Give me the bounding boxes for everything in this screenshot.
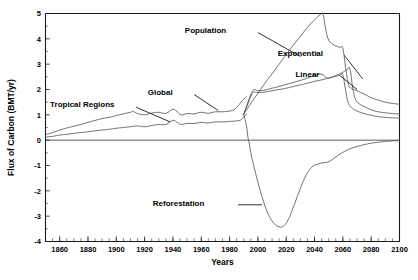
series-label-population: Population	[185, 26, 226, 35]
y-tick-label: -3	[34, 212, 41, 221]
x-tick-label: 1940	[165, 245, 182, 254]
chart-figure: 1860188019001920194019601980200020202040…	[0, 0, 418, 280]
y-tick-label: -1	[34, 161, 41, 170]
x-tick-label: 1960	[193, 245, 210, 254]
x-tick-label: 1980	[221, 245, 238, 254]
series-label-linear: Linear	[295, 70, 319, 79]
x-tick-label: 1860	[51, 245, 68, 254]
y-tick-label: 1	[37, 111, 41, 120]
series-label-global: Global	[148, 88, 173, 97]
x-tick-label: 2060	[335, 245, 352, 254]
series-label-tropical-regions: Tropical Regions	[50, 100, 115, 109]
x-tick-label: 2040	[306, 245, 323, 254]
series-label-exponential: Exponential	[278, 49, 323, 58]
y-tick-label: -2	[34, 187, 41, 196]
x-axis-title: Years	[211, 257, 234, 267]
y-tick-label: 3	[37, 60, 41, 69]
x-tick-label: 2000	[250, 245, 267, 254]
x-tick-label: 1900	[108, 245, 125, 254]
y-tick-label: 0	[37, 136, 41, 145]
y-tick-label: 5	[37, 9, 41, 18]
y-tick-label: -4	[34, 237, 41, 246]
x-tick-label: 1880	[80, 245, 97, 254]
flux-of-carbon-line-chart: 1860188019001920194019601980200020202040…	[0, 0, 418, 280]
y-axis-title: Flux of Carbon (BMT/yr)	[6, 79, 16, 176]
series-label-reforestation: Reforestation	[153, 199, 205, 208]
x-tick-label: 1920	[136, 245, 153, 254]
x-tick-label: 2020	[278, 245, 295, 254]
x-tick-label: 2100	[391, 245, 408, 254]
y-tick-label: 2	[37, 85, 41, 94]
x-tick-label: 2080	[363, 245, 380, 254]
